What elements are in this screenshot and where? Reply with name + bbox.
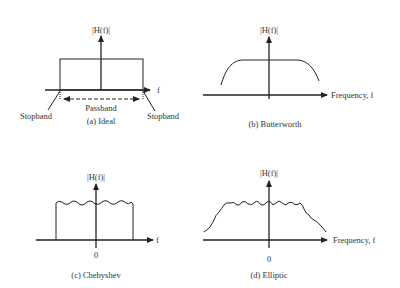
stopband-left-pointer — [48, 91, 60, 110]
y-axis-label: |H(f)| — [87, 172, 105, 182]
origin-label: 0 — [267, 254, 271, 264]
x-axis-label: f — [157, 85, 160, 95]
panel-butterworth: |H(f)| Frequency, f (b) Butterworth — [203, 25, 374, 129]
x-axis-label: Frequency, f — [333, 235, 376, 245]
caption-butterworth: (b) Butterworth — [248, 119, 302, 129]
stopband-left-label: Stopband — [20, 111, 53, 121]
caption-ideal: (a) Ideal — [87, 116, 116, 126]
passband-label: Passband — [85, 103, 117, 113]
caption-chebyshev: (c) Chebyshev — [71, 270, 121, 280]
filter-responses-diagram: |H(f)| f Passband Stopband Stopband (a) … — [0, 0, 400, 288]
stopband-right-pointer — [143, 91, 155, 111]
panel-ideal: |H(f)| f Passband Stopband Stopband (a) … — [20, 25, 180, 126]
butterworth-response-curve — [221, 60, 319, 85]
elliptic-response-curve — [204, 201, 326, 232]
x-axis-label: f — [156, 235, 159, 245]
stopband-right-label: Stopband — [147, 111, 180, 121]
y-axis-label: |H(f)| — [260, 25, 278, 35]
x-axis-label: Frequency, f — [331, 90, 374, 100]
y-axis-label: |H(f)| — [260, 168, 278, 178]
caption-elliptic: (d) Elliptic — [250, 270, 287, 280]
origin-label: 0 — [94, 250, 98, 260]
chebyshev-response-curve — [56, 201, 133, 240]
panel-elliptic: |H(f)| Frequency, f 0 (d) Elliptic — [203, 168, 376, 280]
y-axis-label: |H(f)| — [92, 25, 110, 35]
panel-chebyshev: |H(f)| f 0 (c) Chebyshev — [36, 172, 159, 280]
